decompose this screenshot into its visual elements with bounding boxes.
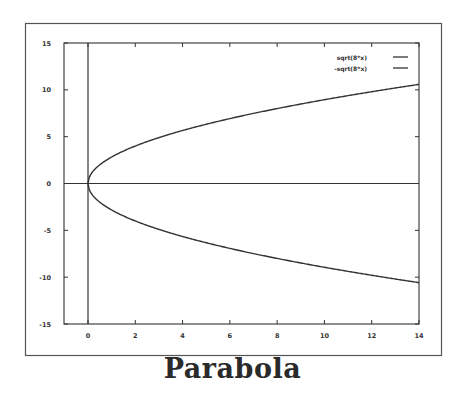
y-tick-label: -5 xyxy=(44,227,52,235)
x-tick-label: 4 xyxy=(180,332,185,340)
y-tick-label: 5 xyxy=(46,133,51,141)
x-tick-label: 12 xyxy=(367,332,376,340)
x-tick-label: 10 xyxy=(320,332,330,340)
x-tick-label: 2 xyxy=(133,332,138,340)
plot-area: 151050-5-10-1502468101214sqrt(8*x)-sqrt(… xyxy=(39,40,424,341)
legend-label: sqrt(8*x) xyxy=(337,54,368,62)
series-line-2 xyxy=(88,184,419,283)
x-tick-label: 8 xyxy=(275,332,280,340)
y-tick-label: 10 xyxy=(42,86,52,94)
series-line-1 xyxy=(88,84,419,183)
legend-label: -sqrt(8*x) xyxy=(334,65,367,73)
y-tick-label: -10 xyxy=(39,274,51,282)
parabola-chart: 151050-5-10-1502468101214sqrt(8*x)-sqrt(… xyxy=(0,0,465,404)
y-tick-label: 0 xyxy=(46,180,51,188)
chart-title: Parabola xyxy=(0,353,465,384)
x-tick-label: 6 xyxy=(228,332,233,340)
y-tick-label: 15 xyxy=(42,40,52,48)
x-tick-label: 0 xyxy=(86,332,91,340)
x-tick-label: 14 xyxy=(414,332,424,340)
y-tick-label: -15 xyxy=(39,321,51,329)
